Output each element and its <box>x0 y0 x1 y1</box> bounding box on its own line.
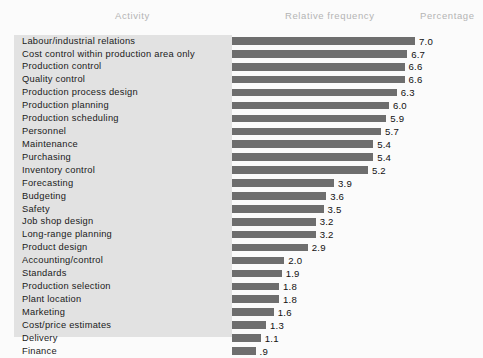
activity-label: Production scheduling <box>22 113 119 124</box>
column-header-percentage: Percentage <box>420 10 475 21</box>
frequency-bar <box>232 76 405 84</box>
chart-rows: Labour/industrial relations7.0Cost contr… <box>0 35 483 337</box>
frequency-bar <box>232 205 324 213</box>
frequency-bar <box>232 89 397 97</box>
column-headers: Activity Relative frequency Percentage <box>0 10 483 26</box>
activity-label: Maintenance <box>22 139 78 150</box>
percentage-value: 3.5 <box>328 204 342 215</box>
percentage-value: 5.7 <box>385 126 399 137</box>
frequency-bar <box>232 283 279 291</box>
activity-label: Standards <box>22 268 67 279</box>
percentage-value: 6.3 <box>401 87 415 98</box>
chart-row: Budgeting3.6 <box>0 190 483 203</box>
percentage-value: 2.0 <box>288 255 302 266</box>
frequency-bar <box>232 115 386 123</box>
frequency-bar <box>232 334 261 342</box>
percentage-value: 2.9 <box>312 242 326 253</box>
frequency-bar <box>232 63 405 71</box>
activity-label: Inventory control <box>22 165 95 176</box>
frequency-bar <box>232 270 282 278</box>
chart-row: Long-range planning3.2 <box>0 229 483 242</box>
percentage-value: 3.2 <box>320 216 334 227</box>
frequency-bar <box>232 308 274 316</box>
chart-row: Marketing1.6 <box>0 306 483 319</box>
chart-row: Production planning6.0 <box>0 100 483 113</box>
activity-label: Safety <box>22 204 50 215</box>
percentage-value: 3.2 <box>320 229 334 240</box>
activity-label: Plant location <box>22 294 81 305</box>
frequency-bar <box>232 37 415 45</box>
activity-label: Forecasting <box>22 178 73 189</box>
chart-row: Labour/industrial relations7.0 <box>0 35 483 48</box>
percentage-value: 1.6 <box>278 307 292 318</box>
activity-label: Long-range planning <box>22 229 112 240</box>
frequency-bar <box>232 192 326 200</box>
percentage-value: 6.6 <box>409 74 423 85</box>
chart-row: Purchasing5.4 <box>0 151 483 164</box>
chart-row: Delivery1.1 <box>0 332 483 345</box>
activity-label: Product design <box>22 242 88 253</box>
chart-row: Standards1.9 <box>0 268 483 281</box>
percentage-value: 3.9 <box>338 178 352 189</box>
chart-row: Quality control6.6 <box>0 74 483 87</box>
percentage-value: 6.6 <box>409 61 423 72</box>
chart-row: Plant location1.8 <box>0 293 483 306</box>
percentage-value: 5.2 <box>372 165 386 176</box>
chart-row: Personnel5.7 <box>0 125 483 138</box>
chart-row: Maintenance5.4 <box>0 138 483 151</box>
chart-row: Production control6.6 <box>0 61 483 74</box>
percentage-value: 1.8 <box>283 281 297 292</box>
frequency-bar <box>232 321 266 329</box>
activity-label: Production process design <box>22 87 138 98</box>
frequency-bar <box>232 50 407 58</box>
activity-label: Labour/industrial relations <box>22 36 135 47</box>
percentage-value: 6.7 <box>411 49 425 60</box>
activity-label: Personnel <box>22 126 66 137</box>
activity-label: Cost control within production area only <box>22 49 195 60</box>
chart-row: Cost control within production area only… <box>0 48 483 61</box>
column-header-activity: Activity <box>115 10 150 21</box>
percentage-value: 1.8 <box>283 294 297 305</box>
chart-row: Finance.9 <box>0 345 483 358</box>
percentage-value: 1.3 <box>270 320 284 331</box>
chart-row: Production selection1.8 <box>0 280 483 293</box>
percentage-value: 5.4 <box>377 152 391 163</box>
activity-label: Job shop design <box>22 216 93 227</box>
chart-row: Safety3.5 <box>0 203 483 216</box>
frequency-bar <box>232 179 334 187</box>
percentage-value: 6.0 <box>393 100 407 111</box>
frequency-bar <box>232 166 368 174</box>
percentage-value: 7.0 <box>419 36 433 47</box>
frequency-bar <box>232 153 373 161</box>
activity-label: Production control <box>22 61 101 72</box>
chart-row: Product design2.9 <box>0 242 483 255</box>
frequency-bar <box>232 257 284 265</box>
activity-label: Cost/price estimates <box>22 320 111 331</box>
activity-label: Delivery <box>22 333 58 344</box>
percentage-value: 1.1 <box>265 333 279 344</box>
activity-label: Production planning <box>22 100 109 111</box>
percentage-value: .9 <box>260 346 268 357</box>
frequency-bar <box>232 347 256 355</box>
frequency-bar <box>232 295 279 303</box>
frequency-bar <box>232 140 373 148</box>
frequency-bar <box>232 231 316 239</box>
frequency-bar <box>232 102 389 110</box>
activity-label: Marketing <box>22 307 65 318</box>
column-header-relative-frequency: Relative frequency <box>285 10 374 21</box>
activity-label: Production selection <box>22 281 111 292</box>
frequency-bar <box>232 128 381 136</box>
percentage-value: 1.9 <box>286 268 300 279</box>
chart-row: Cost/price estimates1.3 <box>0 319 483 332</box>
chart-row: Accounting/control2.0 <box>0 255 483 268</box>
activity-label: Quality control <box>22 74 85 85</box>
activity-label: Finance <box>22 346 57 357</box>
chart-row: Production process design6.3 <box>0 87 483 100</box>
activity-label: Accounting/control <box>22 255 103 266</box>
percentage-value: 5.9 <box>390 113 404 124</box>
percentage-value: 3.6 <box>330 191 344 202</box>
percentage-value: 5.4 <box>377 139 391 150</box>
activity-label: Budgeting <box>22 191 66 202</box>
activity-label: Purchasing <box>22 152 71 163</box>
